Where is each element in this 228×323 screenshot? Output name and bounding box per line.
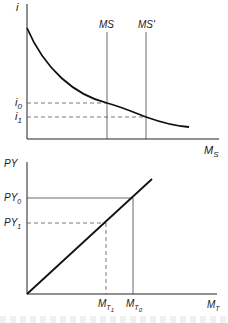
bottom-y-axis-label: PY xyxy=(4,158,19,169)
cropped-caption-artifact xyxy=(0,316,228,323)
money-demand-curve xyxy=(27,28,189,127)
bottom-x-axis-label: MT xyxy=(207,299,220,312)
top-y-axis-label: i xyxy=(16,1,19,13)
ms-prime-label: MS' xyxy=(138,19,156,30)
py0-label: PY0 xyxy=(4,192,21,205)
mt1-label: MT1 xyxy=(98,298,114,313)
top-x-axis-label: MS xyxy=(204,144,219,159)
top-panel: i MS i0 i1 MS MS' xyxy=(15,1,219,159)
bottom-panel: PY MT PY0 PY1 MT1 MT0 xyxy=(4,158,220,313)
i0-label: i0 xyxy=(15,96,22,111)
money-market-diagram: i MS i0 i1 MS MS' PY MT PY0 PY1 MT1 MT0 xyxy=(0,0,228,323)
ms-label: MS xyxy=(99,19,114,30)
mt0-label: MT0 xyxy=(126,298,143,313)
py1-label: PY1 xyxy=(4,217,21,230)
i1-label: i1 xyxy=(15,110,22,125)
